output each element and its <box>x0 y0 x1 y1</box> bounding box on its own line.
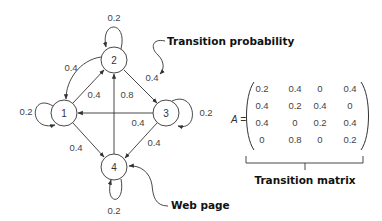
matrix-cell: 0.4 <box>255 117 268 128</box>
transition-matrix: A = 0.2 0.4 0 0.4 0.4 0.2 0.4 0 0.4 0 0.… <box>230 82 368 186</box>
matrix-cell: 0.4 <box>343 117 356 128</box>
matrix-cell: 0.8 <box>288 134 301 145</box>
node-4: 4 <box>101 154 127 180</box>
label-self-1: 0.2 <box>19 106 32 117</box>
matrix-cell: 0.2 <box>288 100 301 111</box>
matrix-cell: 0.4 <box>313 100 326 111</box>
matrix-cell: 0.4 <box>288 83 301 94</box>
matrix-cell: 0.2 <box>313 117 326 128</box>
callout-web-page: Web page <box>129 166 230 211</box>
label-edge-4-2: 0.8 <box>120 89 133 100</box>
matrix-cell: 0.4 <box>255 100 268 111</box>
matrix-right-paren <box>361 82 369 150</box>
node-4-label: 4 <box>111 162 117 173</box>
matrix-row-1: 0.2 0.4 0 0.4 <box>255 83 356 94</box>
transition-probability-label: Transition probability <box>167 35 294 47</box>
node-2: 2 <box>101 47 127 73</box>
edge-2-2-self-loop <box>105 27 122 49</box>
label-edge-3-4: 0.4 <box>147 137 160 148</box>
node-1: 1 <box>51 100 77 126</box>
matrix-bracket <box>246 156 363 170</box>
transition-matrix-label: Transition matrix <box>254 174 355 186</box>
matrix-cell: 0 <box>347 100 352 111</box>
matrix-cell: 0.4 <box>343 83 356 94</box>
matrix-cell: 0 <box>317 134 322 145</box>
label-edge-2-3: 0.4 <box>145 72 158 83</box>
web-page-label: Web page <box>171 199 230 211</box>
matrix-cell: 0 <box>292 117 297 128</box>
matrix-cell: 0 <box>317 83 322 94</box>
matrix-left-paren <box>247 82 255 150</box>
label-edge-2-1: 0.4 <box>64 62 77 73</box>
node-3-label: 3 <box>163 108 169 119</box>
matrix-row-3: 0.4 0 0.2 0.4 <box>255 117 356 128</box>
node-3: 3 <box>153 100 179 126</box>
callout-transition-probability: Transition probability <box>153 35 294 74</box>
label-self-2: 0.2 <box>107 12 120 23</box>
matrix-cell: 0.2 <box>343 134 356 145</box>
label-edge-1-2: 0.4 <box>87 89 100 100</box>
edge-4-4-self-loop <box>110 179 122 199</box>
matrix-cell: 0.2 <box>255 83 268 94</box>
matrix-row-2: 0.4 0.2 0.4 0 <box>255 100 352 111</box>
matrix-row-4: 0 0.8 0 0.2 <box>259 134 356 145</box>
markov-chain-diagram: 1 2 3 4 0.2 0.4 0.4 0.8 0.4 0.2 0.4 0.2 … <box>0 0 382 221</box>
matrix-cell: 0 <box>259 134 264 145</box>
matrix-name: A = <box>230 114 246 125</box>
label-edge-3-1: 0.4 <box>131 117 144 128</box>
node-1-label: 1 <box>61 108 67 119</box>
label-self-3: 0.2 <box>199 107 212 118</box>
label-edge-1-4: 0.4 <box>69 142 82 153</box>
node-2-label: 2 <box>111 55 117 66</box>
label-self-4: 0.2 <box>107 205 120 216</box>
